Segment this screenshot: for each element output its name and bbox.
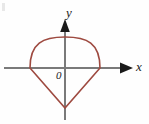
origin-label: 0 [56,70,62,81]
x-axis-arrowhead [120,63,133,74]
x-axis-label: x [136,60,142,73]
coordinate-plane-svg [0,0,149,124]
figure-canvas: y x 0 [0,0,149,124]
y-axis-arrowhead [60,19,70,32]
y-axis-label: y [66,6,72,19]
x-axis-group [4,63,133,74]
